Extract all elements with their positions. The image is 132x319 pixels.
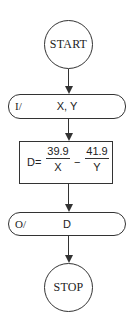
connector-input-process <box>68 119 69 133</box>
term2-denominator: Y <box>85 159 109 173</box>
connector-process-output <box>68 184 69 204</box>
output-parallelogram: O/ D <box>8 212 126 236</box>
start-terminal: START <box>44 20 93 69</box>
term1-numerator: 39.9 <box>46 145 70 159</box>
input-parallelogram: I/ X, Y <box>8 94 126 119</box>
arrow-output-stop <box>65 255 73 263</box>
input-value: X, Y <box>9 100 125 112</box>
fraction-term2: 41.9 Y <box>85 145 109 173</box>
arrow-start-input <box>65 86 73 94</box>
arrow-process-output <box>65 204 73 212</box>
term2-numerator: 41.9 <box>85 145 109 159</box>
process-box: D= 39.9 X − 41.9 Y <box>19 141 113 184</box>
start-label: START <box>50 37 87 52</box>
term1-denominator: X <box>46 159 70 173</box>
connector-start-input <box>68 69 69 86</box>
stop-terminal: STOP <box>44 263 93 312</box>
connector-output-stop <box>68 236 69 255</box>
arrow-input-process <box>65 133 73 141</box>
process-lhs: D= <box>27 156 41 168</box>
output-value: D <box>9 218 125 230</box>
process-operator: − <box>74 156 80 168</box>
stop-label: STOP <box>54 280 84 295</box>
fraction-term1: 39.9 X <box>46 145 70 173</box>
